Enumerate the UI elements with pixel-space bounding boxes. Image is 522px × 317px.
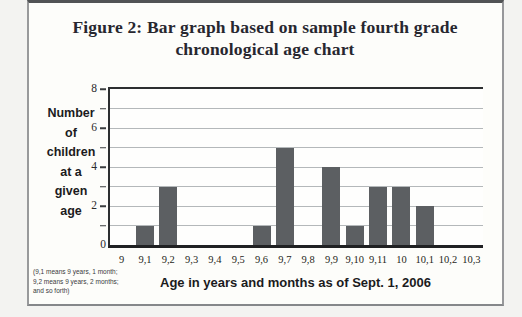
y-axis-label-line: given <box>31 182 111 202</box>
gridline-6 <box>110 128 483 129</box>
x-tick-9,9: 9,9 <box>325 254 338 265</box>
bar-9,2 <box>159 187 177 246</box>
y-tick-mark <box>100 127 106 129</box>
y-minor-tick-mark <box>100 225 106 227</box>
bar-10 <box>392 187 410 246</box>
figure-title: Figure 2: Bar graph based on sample four… <box>55 16 475 60</box>
x-tick-9,7: 9,7 <box>278 254 291 265</box>
y-tick-8: 8 <box>91 83 106 95</box>
figure-title-line1: Figure 2: Bar graph based on sample four… <box>72 17 457 37</box>
figure-title-line2: chronological age chart <box>175 39 354 59</box>
x-tick-10: 10 <box>396 254 407 265</box>
bar-9,7 <box>276 148 294 246</box>
gridline-5 <box>110 147 483 148</box>
x-axis-title: Age in years and months as of Sept. 1, 2… <box>108 275 483 290</box>
x-tick-10,2: 10,2 <box>439 254 457 265</box>
y-tick-label: 8 <box>91 83 97 95</box>
page: Figure 2: Bar graph based on sample four… <box>0 0 522 317</box>
x-tick-9,4: 9,4 <box>208 254 221 265</box>
y-minor-tick-mark <box>100 147 106 149</box>
y-tick-2: 2 <box>91 200 106 212</box>
y-tick-4: 4 <box>91 161 106 173</box>
footnote-line: and so forth) <box>33 286 153 296</box>
x-tick-9,11: 9,11 <box>369 254 387 265</box>
bar-10,1 <box>416 206 434 245</box>
gridline-4 <box>110 167 483 168</box>
x-tick-9: 9 <box>119 254 124 265</box>
gridline-7 <box>110 108 483 109</box>
x-tick-9,8: 9,8 <box>302 254 315 265</box>
x-tick-10,3: 10,3 <box>462 254 480 265</box>
y-axis-label-line: children <box>31 143 111 163</box>
x-tick-9,6: 9,6 <box>255 254 268 265</box>
y-tick-0: 0 <box>100 239 106 251</box>
bar-9,6 <box>253 226 271 246</box>
y-tick-6: 6 <box>91 122 106 134</box>
y-minor-tick-mark <box>100 108 106 110</box>
plot-area <box>108 87 483 248</box>
figure-box: Figure 2: Bar graph based on sample four… <box>27 0 504 306</box>
y-minor-tick-mark <box>100 186 106 188</box>
x-tick-9,2: 9,2 <box>162 254 175 265</box>
y-tick-mark <box>100 88 106 90</box>
y-tick-mark <box>100 166 106 168</box>
bar-9,10 <box>346 226 364 246</box>
y-axis-label-line: Number <box>31 104 111 124</box>
y-minor-tick-7 <box>100 108 106 110</box>
bar-9,11 <box>369 187 387 246</box>
y-tick-label: 4 <box>91 161 97 173</box>
x-tick-10,1: 10,1 <box>416 254 434 265</box>
y-tick-label: 0 <box>100 239 106 251</box>
bar-9,9 <box>322 167 340 245</box>
y-tick-label: 2 <box>91 200 97 212</box>
footnote-line: (9,1 means 9 years, 1 month; <box>33 267 153 277</box>
y-tick-mark <box>100 205 106 207</box>
y-minor-tick-5 <box>100 147 106 149</box>
y-minor-tick-3 <box>100 186 106 188</box>
x-tick-9,10: 9,10 <box>346 254 364 265</box>
footnote-line: 9,2 means 9 years, 2 months; <box>33 277 153 287</box>
footnote: (9,1 means 9 years, 1 month;9,2 means 9 … <box>33 267 153 296</box>
x-tick-9,3: 9,3 <box>185 254 198 265</box>
bar-9,1 <box>136 226 154 246</box>
x-tick-9,5: 9,5 <box>232 254 245 265</box>
y-minor-tick-1 <box>100 225 106 227</box>
x-tick-9,1: 9,1 <box>138 254 151 265</box>
y-tick-label: 6 <box>91 122 97 134</box>
